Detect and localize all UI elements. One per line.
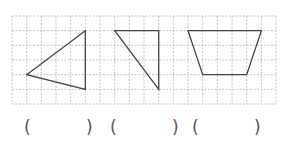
answer-2-close-paren: ): [172, 117, 179, 137]
dashed-grid: [12, 16, 276, 104]
grid-diagram: [0, 0, 285, 148]
answer-1-close-paren: ): [86, 117, 93, 137]
answer-3-close-paren: ): [254, 117, 261, 137]
answer-3-open-paren: (: [192, 117, 199, 137]
answer-1-open-paren: (: [24, 117, 31, 137]
trapezoid: [188, 31, 261, 75]
answer-2-open-paren: (: [110, 117, 117, 137]
